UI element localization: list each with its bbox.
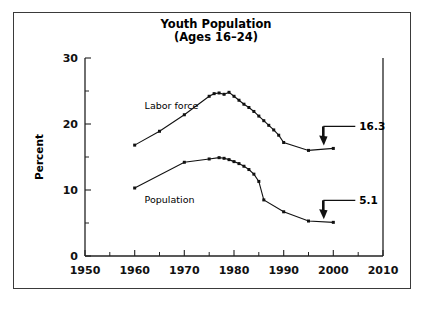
- x-axis-ticks: 1950 1960 1970 1980 1990 2000 2010: [70, 250, 399, 277]
- data-point: [237, 99, 240, 102]
- series-label-population: Population: [145, 194, 195, 205]
- data-point: [247, 168, 250, 171]
- data-point: [262, 198, 265, 201]
- data-point: [223, 157, 226, 160]
- data-point: [133, 144, 136, 147]
- data-point: [218, 156, 221, 159]
- data-point: [252, 173, 255, 176]
- data-point: [252, 110, 255, 113]
- data-point: [158, 130, 161, 133]
- data-point: [277, 134, 280, 137]
- data-point: [223, 93, 226, 96]
- axes: [85, 58, 383, 256]
- figure-container: Youth Population (Ages 16–24) 0 10 20 30…: [0, 0, 426, 309]
- data-point: [267, 124, 270, 127]
- data-point: [332, 221, 335, 224]
- data-point: [307, 149, 310, 152]
- data-point: [307, 220, 310, 223]
- annotation-layer: [319, 126, 355, 219]
- data-point: [282, 210, 285, 213]
- data-point: [272, 128, 275, 131]
- data-point: [247, 106, 250, 109]
- annotation-value-5-1: 5.1: [359, 194, 378, 206]
- annotation-arrow-head: [319, 209, 327, 219]
- data-point: [257, 115, 260, 118]
- data-point: [183, 113, 186, 116]
- y-tick-label-30: 30: [63, 52, 79, 65]
- data-point: [242, 165, 245, 168]
- annotation-arrow-head: [319, 135, 327, 145]
- data-point: [257, 180, 260, 183]
- data-point: [133, 187, 136, 190]
- x-tick-label-2000: 2000: [318, 264, 349, 277]
- data-point: [332, 147, 335, 150]
- data-point: [228, 158, 231, 161]
- data-point: [228, 91, 231, 94]
- series-line-population: [135, 158, 334, 223]
- x-tick-label-2010: 2010: [368, 264, 399, 277]
- y-tick-label-20: 20: [63, 118, 79, 131]
- chart-title: Youth Population: [159, 17, 271, 31]
- y-tick-label-10: 10: [63, 184, 79, 197]
- youth-population-chart: Youth Population (Ages 16–24) 0 10 20 30…: [0, 0, 426, 309]
- annotation-value-16-3: 16.3: [359, 120, 385, 132]
- data-point: [213, 92, 216, 95]
- data-point: [183, 161, 186, 164]
- series-label-labor-force: Labor force: [145, 100, 199, 111]
- chart-subtitle: (Ages 16–24): [174, 30, 258, 44]
- y-axis-ticks: 0 10 20 30: [63, 52, 91, 263]
- y-tick-label-0: 0: [70, 250, 78, 263]
- data-point: [208, 157, 211, 160]
- x-tick-label-1970: 1970: [169, 264, 200, 277]
- x-tick-label-1980: 1980: [219, 264, 250, 277]
- y-axis-label: Percent: [33, 134, 45, 180]
- x-tick-label-1990: 1990: [268, 264, 299, 277]
- data-point: [233, 95, 236, 98]
- x-tick-label-1960: 1960: [119, 264, 150, 277]
- data-point: [242, 103, 245, 106]
- x-tick-label-1950: 1950: [70, 264, 101, 277]
- data-point: [233, 160, 236, 163]
- data-point: [282, 141, 285, 144]
- data-point: [218, 91, 221, 94]
- data-point: [237, 162, 240, 165]
- data-point: [262, 119, 265, 122]
- data-point: [208, 95, 211, 98]
